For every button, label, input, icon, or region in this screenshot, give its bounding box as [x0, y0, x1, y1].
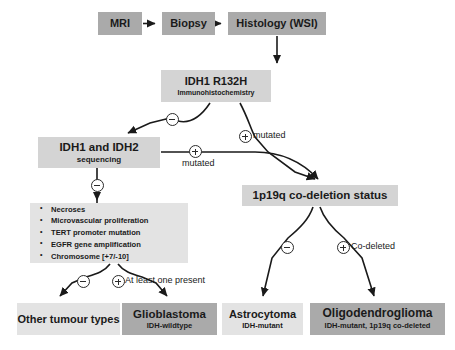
node-biopsy[interactable]: Biopsy: [162, 12, 215, 35]
plus-sign-icon-codeletion-positive: [337, 241, 350, 254]
node-mri[interactable]: MRI: [98, 12, 142, 35]
flowchart-diagram: MRI Biopsy Histology (WSI) IDH1 R132H Im…: [0, 0, 455, 350]
node-histological-features[interactable]: Necroses Microvascular proliferation TER…: [30, 203, 188, 263]
list-item: Necroses: [51, 204, 201, 216]
node-histology[interactable]: Histology (WSI): [228, 12, 326, 35]
node-idh1-idh2-sequencing[interactable]: IDH1 and IDH2 sequencing: [38, 137, 160, 168]
node-histology-label: Histology (WSI): [236, 17, 317, 30]
node-ihc-subtitle: Immunohistochemistry: [177, 89, 254, 97]
node-gbm-title: Glioblastoma: [133, 308, 206, 321]
node-idh-title: IDH1 and IDH2: [59, 141, 138, 154]
edge-label-co-deleted: Co-deleted: [351, 241, 395, 251]
list-item: Microvascular proliferation: [51, 215, 201, 227]
minus-sign-icon-ihc-negative: [166, 113, 179, 126]
node-gbm-subtitle: IDH-wildtype: [147, 322, 192, 331]
node-oligodendroglioma[interactable]: Oligodendroglioma IDH-mutant, 1p19q co-d…: [310, 303, 445, 335]
node-ihc-title: IDH1 R132H: [185, 75, 247, 88]
plus-sign-icon-idh-positive: [189, 145, 202, 158]
node-oligo-title: Oligodendroglioma: [323, 307, 433, 321]
node-astro-title: Astrocytoma: [229, 308, 296, 321]
node-oligo-subtitle: IDH-mutant, 1p19q co-deleted: [325, 322, 431, 331]
minus-sign-icon-codeletion-negative: [281, 241, 294, 254]
node-other-label: Other tumour types: [17, 313, 119, 326]
node-1p19q-codeletion-status[interactable]: 1p19q co-deletion status: [242, 185, 398, 206]
minus-sign-icon-features-negative: [77, 275, 90, 288]
edge-label-at-least-one-present: At least one present: [125, 275, 205, 285]
feature-list: Necroses Microvascular proliferation TER…: [38, 204, 201, 263]
node-mri-label: MRI: [110, 17, 130, 30]
list-item: Chromosome [+7/-10]: [51, 251, 201, 263]
edge-ihc-codeletion: [240, 103, 315, 179]
plus-sign-icon-ihc-positive: [239, 130, 252, 143]
node-idh1-r132h-ihc[interactable]: IDH1 R132H Immunohistochemistry: [161, 70, 271, 102]
node-biopsy-label: Biopsy: [170, 17, 207, 30]
list-item: EGFR gene amplification: [51, 239, 201, 251]
node-1p19q-label: 1p19q co-deletion status: [253, 189, 388, 202]
list-item: TERT promoter mutation: [51, 227, 201, 239]
plus-sign-icon-features-positive: [112, 275, 125, 288]
node-glioblastoma[interactable]: Glioblastoma IDH-wildtype: [122, 303, 217, 335]
node-idh-subtitle: sequencing: [77, 155, 121, 164]
diagram-connectors: [0, 0, 455, 350]
minus-sign-icon-idh-negative: [91, 179, 104, 192]
node-astro-subtitle: IDH-mutant: [242, 322, 282, 331]
edge-label-idh-mutated: mutated: [182, 158, 215, 168]
edge-label-ihc-mutated: mutated: [253, 130, 286, 140]
node-astrocytoma[interactable]: Astrocytoma IDH-mutant: [222, 303, 303, 335]
node-other-tumour-types[interactable]: Other tumour types: [17, 303, 120, 335]
